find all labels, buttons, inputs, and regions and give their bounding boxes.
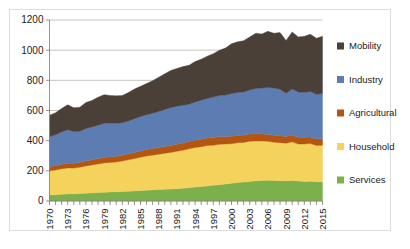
- y-tick-label: 600: [27, 105, 44, 116]
- legend-label-industry: Industry: [349, 74, 383, 85]
- y-tick-label: 400: [27, 135, 44, 146]
- x-axis-tick-labels: 1970197319761979198219851988199119941997…: [44, 209, 328, 230]
- x-tick-label: 1982: [117, 209, 128, 230]
- stacked-area-chart: 020040060080010001200 197019731976197919…: [0, 0, 410, 249]
- x-tick-label: 1979: [99, 209, 110, 230]
- x-tick-label: 1973: [62, 209, 73, 230]
- x-tick-label: 2006: [262, 209, 273, 230]
- chart-legend: MobilityIndustryAgriculturalHouseholdSer…: [337, 40, 397, 185]
- legend-label-mobility: Mobility: [349, 40, 381, 51]
- legend-swatch-services: [337, 177, 344, 184]
- legend-label-agricultural: Agricultural: [349, 107, 397, 118]
- x-tick-label: 1988: [153, 209, 164, 230]
- legend-swatch-household: [337, 143, 344, 150]
- y-tick-label: 1000: [21, 45, 44, 56]
- y-tick-label: 200: [27, 165, 44, 176]
- y-axis-tick-labels: 020040060080010001200: [21, 14, 44, 206]
- legend-label-services: Services: [349, 174, 386, 185]
- y-tick-label: 1200: [21, 14, 44, 25]
- x-tick-label: 1970: [44, 209, 55, 230]
- x-tick-label: 2012: [299, 209, 310, 230]
- x-tick-label: 1985: [135, 209, 146, 230]
- legend-swatch-mobility: [337, 43, 344, 50]
- x-tick-label: 1976: [80, 209, 91, 230]
- chart-container: 020040060080010001200 197019731976197919…: [0, 0, 410, 249]
- x-tick-label: 1997: [208, 209, 219, 230]
- x-tick-label: 2003: [244, 209, 255, 230]
- x-tick-label: 1994: [190, 209, 201, 230]
- x-tick-label: 2000: [226, 209, 237, 230]
- legend-swatch-industry: [337, 76, 344, 83]
- legend-swatch-agricultural: [337, 110, 344, 117]
- y-tick-label: 0: [38, 195, 44, 206]
- area-series-group: [50, 31, 323, 201]
- legend-label-household: Household: [349, 141, 394, 152]
- x-tick-label: 1991: [171, 209, 182, 230]
- y-tick-label: 800: [27, 75, 44, 86]
- x-tick-label: 2009: [281, 209, 292, 230]
- x-tick-label: 2015: [317, 209, 328, 230]
